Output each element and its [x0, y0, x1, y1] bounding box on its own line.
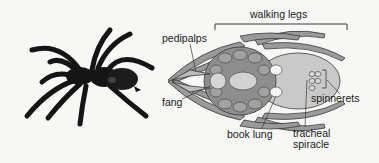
- label-fang: fang: [162, 97, 182, 108]
- mouthparts: [210, 73, 226, 89]
- label-tracheal-spiracle: tracheal spiracle: [293, 128, 330, 150]
- book-lung-upper: [270, 65, 282, 75]
- label-tracheal-line2: spiracle: [293, 139, 330, 150]
- label-book-lung: book lung: [227, 129, 273, 140]
- book-lung-lower: [270, 87, 282, 97]
- walking-legs-bracket: [215, 24, 347, 30]
- spider-anatomy-figure: walking legs pedipalps fang spinnerets b…: [0, 0, 379, 163]
- sternum: [229, 72, 257, 90]
- label-pedipalps: pedipalps: [162, 33, 207, 44]
- label-spinnerets: spinnerets: [311, 93, 359, 104]
- label-walking-legs: walking legs: [250, 9, 307, 20]
